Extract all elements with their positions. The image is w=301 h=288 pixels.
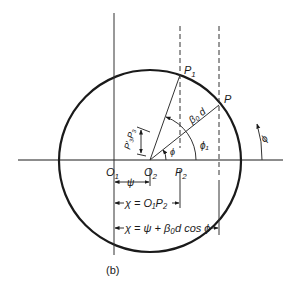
- label-phi1: ϕ₁: [200, 140, 209, 151]
- label-p: P: [224, 93, 232, 105]
- label-phi: ϕ: [170, 147, 175, 157]
- label-p2: P2: [175, 166, 187, 181]
- p3p3-tick-top: [137, 127, 150, 132]
- label-phi-outer: ϕ: [258, 133, 270, 145]
- label-p3p3: P′₃P₃: [122, 127, 137, 150]
- radius-o2-p: [150, 105, 219, 160]
- radius-o2-p1: [150, 75, 180, 160]
- label-o1: O1: [106, 166, 119, 181]
- label-chi-full: χ = ψ + β₀d cos ϕ: [124, 222, 210, 234]
- p3p3-tick-bot: [137, 154, 146, 156]
- outer-phi-arc: [257, 124, 262, 160]
- label-o2: O2: [144, 166, 158, 181]
- label-chi-o1p2: χ = O₁P₂: [124, 197, 168, 209]
- diagram-figure: P1 P O1 O2 P2 β₀ d ϕ ϕ₁ ϕ P′₃P₃ ψ χ = O₁…: [0, 0, 301, 288]
- label-psi: ψ: [127, 177, 135, 188]
- phi-arc: [163, 150, 166, 160]
- figure-caption: (b): [106, 264, 119, 276]
- geometry-diagram: P1 P O1 O2 P2 β₀ d ϕ ϕ₁ ϕ P′₃P₃ ψ χ = O₁…: [0, 0, 301, 288]
